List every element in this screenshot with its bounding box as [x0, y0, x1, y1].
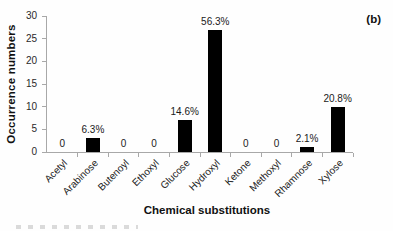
category-slot: 0Butenoyl	[108, 16, 139, 152]
category-label: Glucose	[159, 158, 192, 191]
x-tick-mark	[291, 153, 292, 157]
panel-label: (b)	[366, 13, 381, 25]
x-axis-title: Chemical substitutions	[47, 204, 367, 216]
x-tick-mark	[261, 153, 262, 157]
plot-area: 051015202530 0Acetyl6.3%Arabinose0Buteno…	[46, 16, 353, 153]
bar-value-label: 0	[60, 138, 66, 149]
y-tick-label: 30	[9, 10, 37, 22]
bar-value-label: 2.1%	[296, 133, 319, 144]
category-label: Xylose	[316, 158, 344, 186]
bar-value-label: 0	[151, 138, 157, 149]
bar	[208, 30, 222, 152]
x-tick-mark	[77, 153, 78, 157]
y-tick-label: 20	[9, 55, 37, 67]
x-tick-mark	[353, 153, 354, 157]
category-label: Ethoxyl	[131, 158, 161, 188]
bar-value-label: 20.8%	[323, 93, 351, 104]
cropped-caption-artifact	[16, 225, 138, 229]
x-tick-mark	[169, 153, 170, 157]
category-slot: 0Acetyl	[47, 16, 78, 152]
category-label: Butenoyl	[96, 158, 131, 193]
category-slot: 0Ketone	[231, 16, 262, 152]
category-slot: 14.6%Glucose	[169, 16, 200, 152]
y-tick-label: 25	[9, 33, 37, 45]
y-tick-label: 0	[9, 146, 37, 158]
x-tick-mark	[322, 153, 323, 157]
bar-value-label: 0	[274, 138, 280, 149]
bar	[331, 107, 345, 152]
bar-series: 0Acetyl6.3%Arabinose0Butenoyl0Ethoxyl14.…	[47, 16, 353, 152]
bar-value-label: 6.3%	[81, 124, 104, 135]
bar	[300, 147, 314, 152]
x-tick-mark	[108, 153, 109, 157]
y-tick-label: 10	[9, 101, 37, 113]
x-tick-mark	[230, 153, 231, 157]
bar	[86, 138, 100, 152]
bar-chart-figure: (b) Occurrence numbers 051015202530 0Ace…	[0, 0, 393, 231]
bar	[178, 120, 192, 152]
category-slot: 0Methoxyl	[261, 16, 292, 152]
x-tick-mark	[138, 153, 139, 157]
category-slot: 20.8%Xylose	[322, 16, 353, 152]
category-slot: 6.3%Arabinose	[78, 16, 109, 152]
bar-value-label: 56.3%	[201, 16, 229, 27]
bar-value-label: 14.6%	[170, 106, 198, 117]
category-label: Acetyl	[43, 158, 69, 184]
bar-value-label: 0	[243, 138, 249, 149]
bar-value-label: 0	[121, 138, 127, 149]
category-label: Hydroxyl	[188, 158, 223, 193]
y-tick-label: 5	[9, 123, 37, 135]
category-slot: 0Ethoxyl	[139, 16, 170, 152]
y-tick-label: 15	[9, 78, 37, 90]
category-slot: 56.3%Hydroxyl	[200, 16, 231, 152]
category-slot: 2.1%Rhamnose	[292, 16, 323, 152]
x-tick-mark	[200, 153, 201, 157]
